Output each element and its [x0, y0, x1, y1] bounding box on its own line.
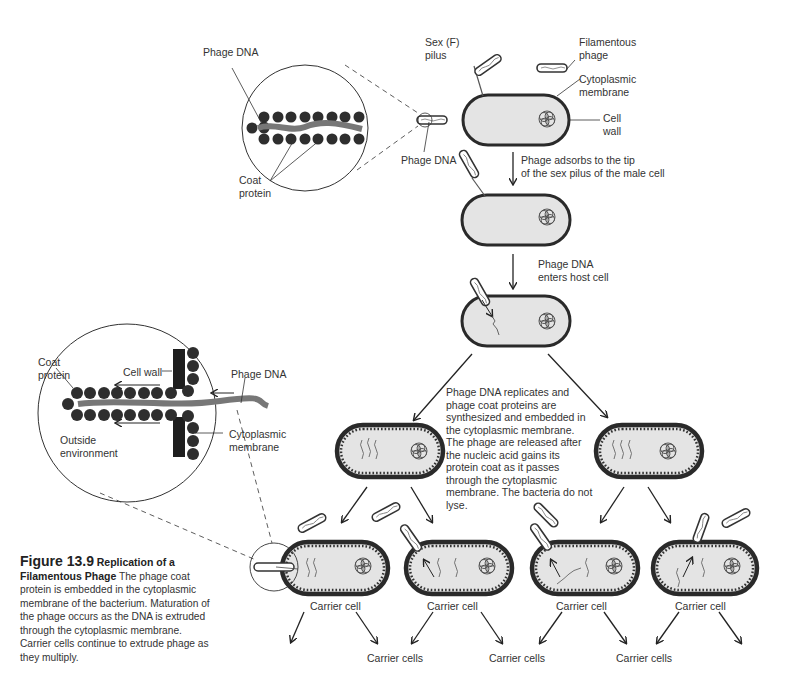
cell-stage-1-uninfected [417, 53, 600, 152]
cell-wall-label: Cell wall [603, 112, 621, 137]
sex-pilus-label: Sex (F) pilus [425, 36, 459, 61]
carrier-cell-label-2: Carrier cell [427, 600, 478, 613]
carrier-cell-label-3: Carrier cell [556, 600, 607, 613]
top-inset-coat-protein-label: Coat protein [239, 174, 271, 199]
carrier-cell-label-1: Carrier cell [310, 600, 361, 613]
bottom-inset-cell-wall-label: Cell wall [123, 366, 162, 379]
cell-stage-4-replicating-left [337, 425, 443, 477]
bottom-inset-coat-protein-label: Coat protein [38, 356, 70, 381]
step-replicates-text: Phage DNA replicates and phage coat prot… [446, 386, 594, 511]
filamentous-phage-label: Filamentous phage [579, 36, 636, 61]
phage-dna-strand [258, 123, 362, 129]
figure-caption-text: The phage coat protein is embedded in th… [20, 571, 210, 663]
cytoplasmic-membrane-label: Cytoplasmic membrane [579, 73, 636, 98]
figure-caption: Figure 13.9 Replication of a Filamentous… [20, 555, 210, 664]
figure-number: Figure 13.9 [20, 553, 94, 569]
carrier-cell-4 [653, 513, 757, 594]
outside-environment-label: Outside environment [60, 434, 118, 459]
carrier-cells-label-1: Carrier cells [367, 652, 423, 665]
step-enters-text: Phage DNA enters host cell [538, 258, 609, 283]
bottom-inset-phage-dna-label: Phage DNA [231, 368, 286, 381]
phage-dna-label: Phage DNA [401, 154, 456, 167]
carrier-cell-label-4: Carrier cell [675, 600, 726, 613]
step-adsorb-text: Phage adsorbs to the tip of the sex pilu… [521, 154, 665, 179]
cell-stage-3-dna-entry [462, 277, 570, 346]
top-inset-magnified-phage [232, 65, 418, 191]
carrier-cell-2 [399, 523, 512, 594]
cell-stage-4-replicating-right [596, 425, 702, 477]
bottom-inset-cytoplasmic-membrane-label: Cytoplasmic membrane [229, 428, 286, 453]
carrier-cells-label-2: Carrier cells [489, 652, 545, 665]
carrier-cell-1 [250, 542, 388, 594]
carrier-cells-label-3: Carrier cells [616, 652, 672, 665]
top-inset-phage-dna-label: Phage DNA [203, 46, 258, 59]
carrier-cell-3 [529, 522, 638, 594]
